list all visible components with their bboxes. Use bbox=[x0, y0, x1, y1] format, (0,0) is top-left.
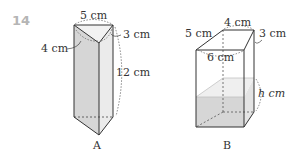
dim-b-right: 3 cm bbox=[259, 27, 287, 40]
rectangular-prism-b bbox=[196, 26, 262, 128]
dim-b-top: 4 cm bbox=[224, 16, 252, 29]
dim-b-left: 5 cm bbox=[185, 27, 213, 40]
dim-b-water: h cm bbox=[258, 87, 285, 100]
dim-a-top: 5 cm bbox=[80, 9, 108, 22]
figure-b-label: B bbox=[223, 139, 231, 152]
dim-a-height: 12 cm bbox=[116, 66, 151, 79]
question-number: 14 bbox=[12, 13, 30, 28]
dim-a-right: 3 cm bbox=[123, 28, 151, 41]
figure-canvas: 14 5 cm 4 cm 3 cm 12 cm A bbox=[0, 0, 301, 153]
triangular-prism-a bbox=[67, 20, 122, 136]
figure-a-label: A bbox=[92, 139, 102, 152]
dim-a-left: 4 cm bbox=[41, 42, 69, 55]
dim-b-front: 6 cm bbox=[207, 51, 235, 64]
